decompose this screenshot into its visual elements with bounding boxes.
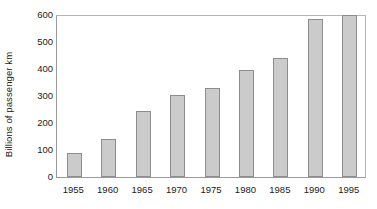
x-tick-label-1995: 1995 xyxy=(338,184,359,195)
y-tick-label-0: 0 xyxy=(20,172,53,182)
bar-1975 xyxy=(205,88,220,177)
bar-1990 xyxy=(308,19,323,177)
x-tick-label-1960: 1960 xyxy=(97,184,118,195)
bar-1970 xyxy=(170,95,185,177)
bar-1985 xyxy=(273,58,288,177)
x-axis-tick-labels: 195519601965197019751980198519901995 xyxy=(56,184,366,202)
y-tick-label-200: 200 xyxy=(20,118,53,128)
x-tick-label-1980: 1980 xyxy=(235,184,256,195)
y-axis-tick-labels: 0100200300400500600 xyxy=(20,0,53,209)
bar-1965 xyxy=(136,111,151,177)
x-tick-label-1990: 1990 xyxy=(304,184,325,195)
bar-1955 xyxy=(67,153,82,177)
y-tick-label-400: 400 xyxy=(20,64,53,74)
bar-1980 xyxy=(239,70,254,177)
x-tick-label-1975: 1975 xyxy=(200,184,221,195)
y-tick-label-300: 300 xyxy=(20,91,53,101)
bars-layer xyxy=(57,16,365,177)
x-tick-label-1985: 1985 xyxy=(269,184,290,195)
x-tick-label-1955: 1955 xyxy=(63,184,84,195)
bar-chart-figure: Billions of passenger km 010020030040050… xyxy=(0,0,377,209)
x-tick-label-1970: 1970 xyxy=(166,184,187,195)
y-tick-label-100: 100 xyxy=(20,145,53,155)
bar-1960 xyxy=(101,139,116,177)
y-tick-label-600: 600 xyxy=(20,10,53,20)
bar-1995 xyxy=(342,15,357,177)
y-tick-label-500: 500 xyxy=(20,37,53,47)
x-tick-label-1965: 1965 xyxy=(132,184,153,195)
y-axis-title: Billions of passenger km xyxy=(0,0,16,209)
plot-area xyxy=(56,15,366,178)
